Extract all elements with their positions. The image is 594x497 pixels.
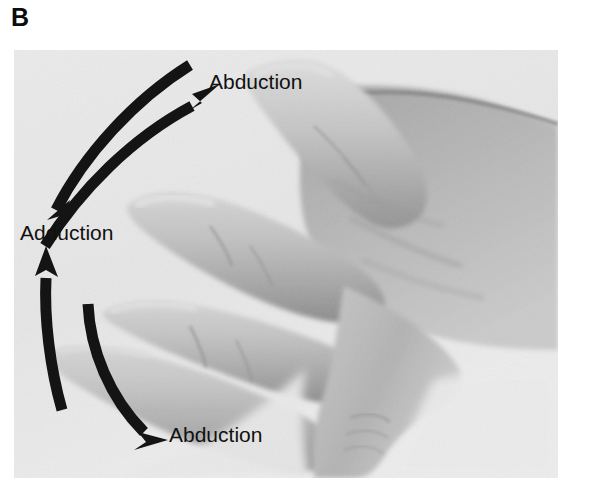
annotation-label-abduction-bottom: Abduction	[169, 424, 262, 445]
hand-photograph-svg	[14, 50, 558, 478]
panel-letter-label: B	[11, 5, 29, 30]
annotation-label-adduction: Adduction	[20, 222, 113, 243]
figure-panel: B	[0, 0, 594, 497]
annotation-label-abduction-top: Abduction	[209, 71, 302, 92]
hand-photograph	[14, 50, 558, 478]
